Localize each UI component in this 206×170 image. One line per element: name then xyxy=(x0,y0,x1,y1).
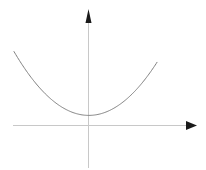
plot-canvas xyxy=(0,0,206,170)
figure-background xyxy=(0,0,206,170)
parabola-figure xyxy=(0,0,206,170)
